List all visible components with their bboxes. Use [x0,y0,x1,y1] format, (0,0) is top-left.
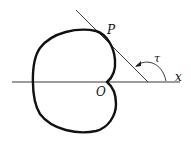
diagram-canvas [0,0,191,145]
cardioid-curve [33,30,116,133]
arrowhead-icon [135,61,141,67]
x-axis-label: x [175,71,182,83]
point-p-label: P [107,24,115,36]
cardioid-diagram: P O τ x [0,0,191,145]
origin-label: O [96,86,106,98]
tau-label: τ [154,53,160,64]
